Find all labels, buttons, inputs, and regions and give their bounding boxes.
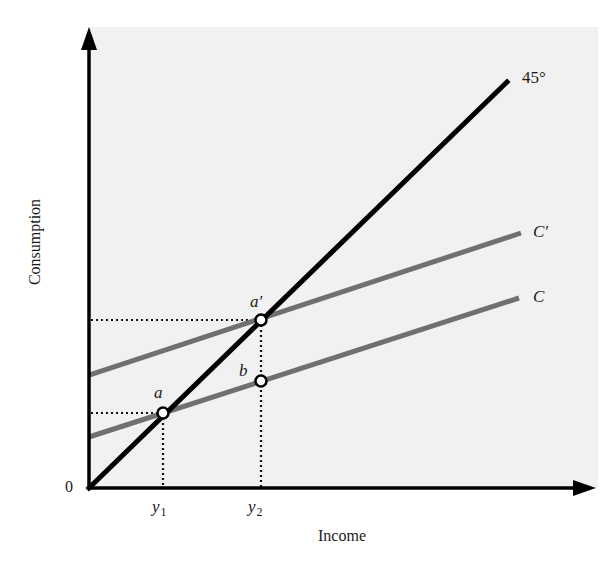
x-axis-label: Income — [318, 527, 366, 545]
tick-y1-main: y — [152, 497, 160, 516]
point-a-label: a — [154, 383, 163, 403]
origin-label: 0 — [65, 478, 73, 496]
point-b-label: b — [239, 361, 248, 381]
line-c-label: C — [533, 287, 544, 307]
tick-y2-main: y — [248, 497, 256, 516]
point-a-marker — [158, 408, 169, 419]
tick-label-y2: y2 — [248, 497, 263, 517]
consumption-income-diagram: Consumption Income 0 y1 y2 45° C′ C a a′… — [0, 0, 614, 567]
tick-y1-subscript: 1 — [161, 505, 167, 519]
y-axis-label: Consumption — [26, 199, 44, 285]
line-45-label: 45° — [522, 68, 546, 88]
point-aprime-marker — [256, 315, 267, 326]
line-cprime-label: C′ — [533, 222, 548, 242]
point-b-marker — [256, 376, 267, 387]
tick-label-y1: y1 — [152, 497, 167, 517]
point-aprime-label: a′ — [250, 292, 262, 312]
tick-y2-subscript: 2 — [257, 505, 263, 519]
